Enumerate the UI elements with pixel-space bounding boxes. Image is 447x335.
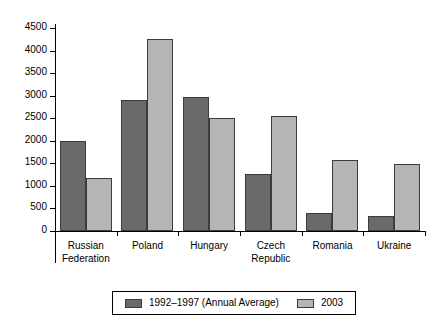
y-tick-label: 1000 [7,179,47,191]
bar [245,174,271,231]
y-tick-label: 4000 [7,44,47,56]
plot-area: 050010001500200025003000350040004500 [55,28,425,231]
legend-entry: 1992–1997 (Annual Average) [125,297,279,309]
bar [147,39,173,231]
bar [121,100,147,231]
bar [209,118,235,231]
x-tick-mark [55,231,56,236]
y-tick-label: 2000 [7,134,47,146]
bar [183,97,209,231]
x-axis-category-label: Poland [117,239,179,252]
y-tick-label: 3000 [7,89,47,101]
bar-chart-figure: 050010001500200025003000350040004500 Rus… [0,0,447,335]
x-axis-category-label: Russian Federation [55,239,117,265]
y-tick-label: 500 [7,201,47,213]
bar-group [302,28,364,231]
x-tick-mark [240,231,241,236]
y-tick-label: 2500 [7,111,47,123]
legend-swatch [297,299,314,308]
chart-legend: 1992–1997 (Annual Average)2003 [112,291,356,315]
bar-group [240,28,302,231]
y-tick-label: 3500 [7,66,47,78]
legend-swatch [125,299,142,308]
bar-group [178,28,240,231]
bar [368,216,394,231]
x-tick-mark [117,231,118,236]
bar [86,178,112,231]
x-axis-category-label: Czech Republic [240,239,302,265]
x-axis-category-label: Ukraine [363,239,425,252]
bar [60,141,86,231]
x-axis-category-label: Romania [302,239,364,252]
bar [394,164,420,231]
bar-group [117,28,179,231]
y-tick-label: 0 [7,224,47,236]
bar [332,160,358,231]
y-tick-label: 1500 [7,156,47,168]
bar-group [363,28,425,231]
y-tick-label: 4500 [7,21,47,33]
legend-label: 1992–1997 (Annual Average) [149,297,279,309]
legend-label: 2003 [321,297,343,309]
x-tick-mark [363,231,364,236]
bar-group [55,28,117,231]
x-tick-mark [302,231,303,236]
x-tick-mark [425,231,426,236]
legend-entry: 2003 [297,297,343,309]
bar [306,213,332,231]
bar [271,116,297,231]
x-tick-mark [178,231,179,236]
x-axis-category-label: Hungary [178,239,240,252]
